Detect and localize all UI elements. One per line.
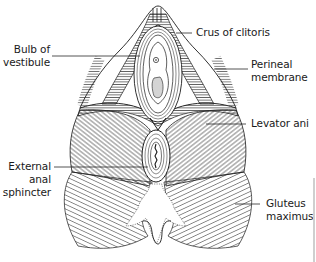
label-text: Crus of clitoris [196, 26, 270, 39]
label-text: Gluteus [266, 197, 313, 210]
label-crus-of-clitoris: Crus of clitoris [196, 26, 270, 39]
label-text: External [0, 160, 51, 173]
label-text: Levator ani [251, 117, 309, 130]
label-text: sphincter [0, 186, 51, 199]
label-gluteus-maximus: Gluteus maximus [266, 197, 313, 223]
external-anal-sphincter-shape [142, 130, 170, 182]
label-text: Perineal [251, 58, 308, 71]
image-edge-bar [313, 178, 315, 262]
bulb-of-vestibule-shape [134, 26, 182, 122]
label-text: anal [0, 173, 51, 186]
label-perineal-membrane: Perineal membrane [251, 58, 308, 84]
label-levator-ani: Levator ani [251, 117, 309, 130]
label-text: Bulb of [0, 43, 50, 56]
label-external-anal-sphincter: External anal sphincter [0, 160, 51, 199]
label-text: membrane [251, 71, 308, 84]
label-text: maximus [266, 210, 313, 223]
label-bulb-of-vestibule: Bulb of vestibule [0, 43, 50, 69]
anatomy-diagram: Crus of clitoris Bulb of vestibule Perin… [0, 0, 316, 262]
label-text: vestibule [0, 56, 50, 69]
